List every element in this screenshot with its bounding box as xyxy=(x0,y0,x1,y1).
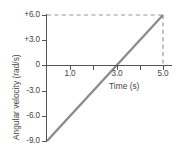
y-tick-0 xyxy=(42,65,46,66)
y-tick-minus-3 xyxy=(42,91,46,92)
x-tick-label-1: 1.0 xyxy=(57,69,83,78)
x-tick-4 xyxy=(140,66,141,70)
x-axis-title: Time (s) xyxy=(109,81,139,91)
angular-velocity-series-line xyxy=(47,15,163,141)
y-tick-3 xyxy=(42,40,46,41)
y-tick-label-3: +3.0 xyxy=(10,35,40,44)
y-tick-minus-9 xyxy=(42,141,46,142)
x-tick-label-3: 3.0 xyxy=(104,69,130,78)
x-tick-2 xyxy=(93,66,94,70)
x-axis-line xyxy=(47,65,172,66)
y-axis-title: Angular velocity (rad/s) xyxy=(11,54,21,140)
angular-velocity-chart: +6.0 +3.0 0 -3.0 -6.0 -9.0 1.0 3.0 5.0 T… xyxy=(0,0,187,159)
y-axis-line xyxy=(46,14,47,142)
y-tick-6 xyxy=(42,15,46,16)
y-tick-label-6: +6.0 xyxy=(10,10,40,19)
y-tick-minus-6 xyxy=(42,116,46,117)
x-tick-label-5: 5.0 xyxy=(150,69,176,78)
